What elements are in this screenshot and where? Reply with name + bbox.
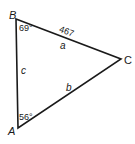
side-c-label: c: [21, 66, 26, 76]
side-b-label: b: [66, 83, 72, 93]
vertex-label-c: C: [124, 55, 132, 66]
angle-a-label: 56°: [19, 113, 33, 122]
vertex-label-b: B: [9, 10, 16, 21]
angle-b-label: 69°: [19, 24, 33, 33]
side-a-label: a: [60, 41, 66, 51]
vertex-label-a: A: [8, 126, 15, 137]
triangle-diagram: B C A 69° 56° 467 a c b: [0, 0, 135, 144]
